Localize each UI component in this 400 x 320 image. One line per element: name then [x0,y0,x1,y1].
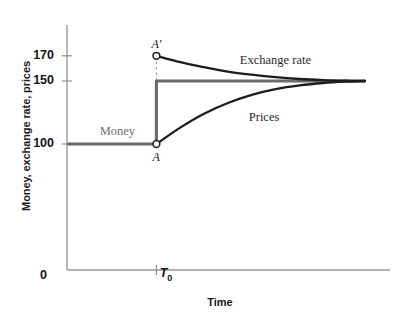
chart-figure: Money, exchange rate, prices Time 170 15… [0,0,400,320]
y-tick-label-100: 100 [8,136,54,150]
x-tick-label-t0-sub: 0 [167,273,172,283]
chart-plot-area [0,0,400,320]
series-label-money: Money [100,124,135,139]
annotation-label-a-prime: A' [151,37,161,52]
x-tick-label-t0: T0 [148,266,184,283]
point-a-prime-marker [153,52,160,59]
x-tick-label-origin: 0 [40,268,47,282]
point-a-marker [153,141,160,148]
y-tick-label-170: 170 [8,48,54,62]
annotation-label-a: A [152,150,159,165]
x-axis-title: Time [170,296,270,308]
series-label-prices: Prices [249,110,280,125]
y-tick-label-150: 150 [8,73,54,87]
series-label-exchange-rate: Exchange rate [240,53,311,68]
